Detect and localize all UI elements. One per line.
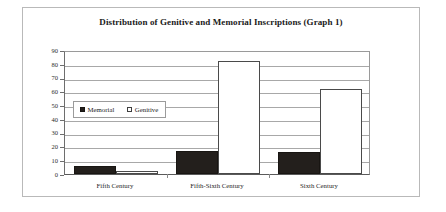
gridline <box>65 80 369 81</box>
y-axis-tick-label: 60 <box>36 89 58 96</box>
bar-genitive-1 <box>116 171 158 174</box>
x-axis-label-1: Fifth Century <box>64 182 166 189</box>
chart-legend: Memorial Genitive <box>73 101 166 118</box>
legend-entry-memorial: Memorial <box>80 106 114 113</box>
category-separator <box>167 174 168 178</box>
chart-figure: Distribution of Genitive and Memorial In… <box>0 0 446 212</box>
y-axis-tick-label: 0 <box>36 172 58 179</box>
y-axis-tick-label: 40 <box>36 117 58 124</box>
gridline <box>65 66 369 67</box>
x-axis-label-3: Sixth Century <box>268 182 370 189</box>
y-axis-tick-label: 20 <box>36 144 58 151</box>
legend-entry-genitive: Genitive <box>127 106 158 113</box>
legend-label-genitive: Genitive <box>135 106 158 113</box>
y-axis-tick-label: 50 <box>36 103 58 110</box>
y-axis-tick-label: 90 <box>36 48 58 55</box>
y-axis-tick-label: 70 <box>36 75 58 82</box>
bar-genitive-3 <box>320 89 362 174</box>
x-axis-label-2: Fifth-Sixth Century <box>166 182 268 189</box>
legend-swatch-memorial-icon <box>80 107 85 112</box>
y-axis-tick-label: 80 <box>36 62 58 69</box>
y-axis-tick-label: 10 <box>36 158 58 165</box>
legend-swatch-genitive-icon <box>127 107 132 112</box>
chart-title: Distribution of Genitive and Memorial In… <box>22 17 420 27</box>
bar-memorial-2 <box>176 151 218 174</box>
bar-memorial-1 <box>74 166 116 174</box>
bar-genitive-2 <box>218 61 260 174</box>
y-axis-tick-label: 30 <box>36 130 58 137</box>
bar-memorial-3 <box>278 152 320 174</box>
y-axis-tick-mark <box>60 175 64 176</box>
legend-label-memorial: Memorial <box>88 106 115 113</box>
category-separator <box>269 174 270 178</box>
